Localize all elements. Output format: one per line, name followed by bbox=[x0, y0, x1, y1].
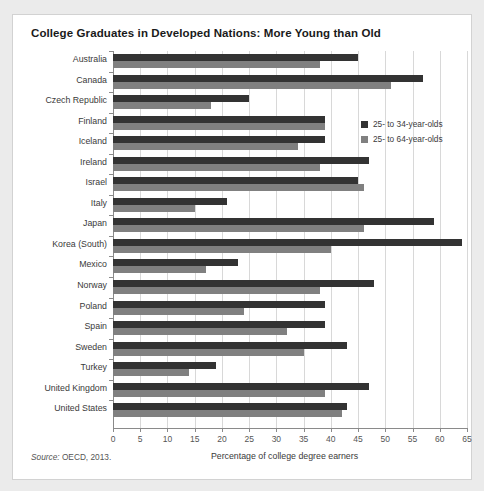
y-tick bbox=[109, 174, 113, 175]
bar-young bbox=[113, 301, 325, 308]
bar-young bbox=[113, 383, 369, 390]
x-tick bbox=[276, 428, 277, 432]
bar-all bbox=[113, 308, 244, 315]
bar-group: Czech Republic bbox=[113, 95, 467, 109]
bar-young bbox=[113, 136, 325, 143]
x-tick bbox=[304, 428, 305, 432]
y-axis-label: Canada bbox=[76, 76, 107, 85]
legend-label-all: 25- to 64-year-olds bbox=[373, 134, 443, 144]
legend-item-young: 25- to 34-year-olds bbox=[361, 119, 443, 129]
bar-group: Japan bbox=[113, 218, 467, 232]
y-tick bbox=[109, 359, 113, 360]
y-tick bbox=[109, 72, 113, 73]
y-axis-label: Iceland bbox=[79, 137, 107, 146]
bar-young bbox=[113, 157, 369, 164]
y-axis-label: Sweden bbox=[75, 343, 107, 352]
bar-all bbox=[113, 390, 325, 397]
bar-all bbox=[113, 410, 342, 417]
bar-young bbox=[113, 177, 358, 184]
x-tick bbox=[195, 428, 196, 432]
y-axis-label: Mexico bbox=[79, 260, 107, 269]
bar-young bbox=[113, 116, 325, 123]
x-tick-label: 10 bbox=[163, 434, 172, 444]
bar-group: Ireland bbox=[113, 157, 467, 171]
y-tick bbox=[109, 133, 113, 134]
x-tick-label: 35 bbox=[299, 434, 308, 444]
x-tick bbox=[385, 428, 386, 432]
y-tick bbox=[109, 236, 113, 237]
bar-all bbox=[113, 82, 391, 89]
x-tick-label: 20 bbox=[217, 434, 226, 444]
bar-young bbox=[113, 198, 227, 205]
source-note: Source: OECD, 2013. bbox=[31, 452, 111, 462]
y-axis-label: Korea (South) bbox=[52, 240, 107, 249]
y-tick bbox=[109, 51, 113, 52]
x-axis-line bbox=[113, 428, 468, 429]
x-tick bbox=[140, 428, 141, 432]
bar-all bbox=[113, 266, 206, 273]
x-tick-label: 5 bbox=[138, 434, 143, 444]
bar-all bbox=[113, 369, 189, 376]
x-tick bbox=[440, 428, 441, 432]
bar-all bbox=[113, 287, 320, 294]
bar-all bbox=[113, 164, 320, 171]
chart-panel: College Graduates in Developed Nations: … bbox=[12, 14, 472, 480]
x-tick-label: 60 bbox=[435, 434, 444, 444]
y-axis-label: United Kingdom bbox=[44, 384, 107, 393]
bar-group: United Kingdom bbox=[113, 383, 467, 397]
y-axis-label: Turkey bbox=[80, 363, 107, 372]
y-axis-label: Norway bbox=[77, 281, 107, 290]
bar-all bbox=[113, 143, 298, 150]
legend-swatch-young bbox=[361, 121, 368, 128]
y-tick bbox=[109, 92, 113, 93]
bar-all bbox=[113, 225, 364, 232]
y-tick bbox=[109, 113, 113, 114]
bar-all bbox=[113, 328, 287, 335]
x-tick bbox=[113, 428, 114, 432]
bar-all bbox=[113, 123, 325, 130]
bar-young bbox=[113, 280, 374, 287]
bar-group: Norway bbox=[113, 280, 467, 294]
page-title: College Graduates in Developed Nations: … bbox=[31, 27, 381, 39]
x-tick-label: 50 bbox=[381, 434, 390, 444]
legend-label-young: 25- to 34-year-olds bbox=[373, 119, 443, 129]
bar-group: Italy bbox=[113, 198, 467, 212]
bar-young bbox=[113, 362, 216, 369]
y-axis-label: United States bbox=[54, 404, 107, 413]
bar-group: Spain bbox=[113, 321, 467, 335]
bar-all bbox=[113, 61, 320, 68]
bar-young bbox=[113, 259, 238, 266]
y-axis-label: Italy bbox=[91, 199, 107, 208]
x-tick-label: 15 bbox=[190, 434, 199, 444]
y-axis-label: Finland bbox=[78, 117, 107, 126]
x-tick bbox=[249, 428, 250, 432]
y-tick bbox=[109, 400, 113, 401]
x-tick-label: 25 bbox=[244, 434, 253, 444]
y-tick bbox=[109, 256, 113, 257]
x-tick-label: 0 bbox=[111, 434, 116, 444]
x-tick bbox=[413, 428, 414, 432]
legend-item-all: 25- to 64-year-olds bbox=[361, 134, 443, 144]
y-tick bbox=[109, 318, 113, 319]
bar-young bbox=[113, 239, 462, 246]
y-axis-label: Poland bbox=[80, 302, 107, 311]
bar-all bbox=[113, 102, 211, 109]
y-tick bbox=[109, 277, 113, 278]
y-axis-label: Japan bbox=[83, 219, 107, 228]
y-tick bbox=[109, 154, 113, 155]
bar-group: Sweden bbox=[113, 342, 467, 356]
y-tick bbox=[109, 215, 113, 216]
source-prefix: Source: bbox=[31, 452, 60, 462]
x-tick-label: 40 bbox=[326, 434, 335, 444]
x-axis-title: Percentage of college degree earners bbox=[101, 451, 468, 461]
bar-all bbox=[113, 246, 331, 253]
y-tick bbox=[109, 380, 113, 381]
x-tick-label: 45 bbox=[353, 434, 362, 444]
bar-group: Mexico bbox=[113, 259, 467, 273]
legend-swatch-all bbox=[361, 136, 368, 143]
bar-group: Australia bbox=[113, 54, 467, 68]
bar-group: Korea (South) bbox=[113, 239, 467, 253]
y-axis-label: Czech Republic bbox=[45, 96, 107, 105]
bar-all bbox=[113, 205, 195, 212]
bar-group: Turkey bbox=[113, 362, 467, 376]
